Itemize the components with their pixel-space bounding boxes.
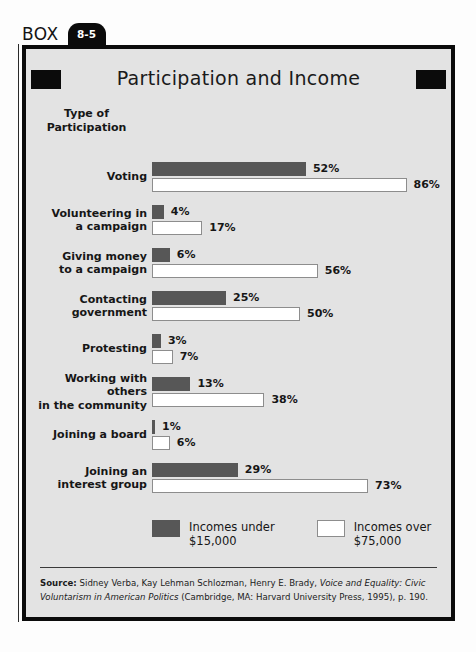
bar-line-high-income: 86% [152, 178, 447, 192]
chart-row-label: Working with others in the community [26, 371, 147, 412]
legend-swatch [317, 520, 345, 537]
bar-value-high-income: 86% [414, 178, 440, 191]
chart-row-bars: 25%50% [152, 291, 447, 321]
bar-value-low-income: 6% [177, 248, 196, 261]
bar-high-income [152, 436, 170, 450]
bar-low-income [152, 162, 306, 176]
bar-line-low-income: 1% [152, 420, 447, 434]
bar-value-high-income: 50% [307, 307, 333, 320]
chart-row-bars: 4%17% [152, 205, 447, 235]
source-citation: Source: Sidney Verba, Kay Lehman Schlozm… [40, 576, 437, 604]
chart-row: Working with others in the community13%3… [26, 370, 451, 413]
bar-value-high-income: 38% [271, 393, 297, 406]
bar-value-low-income: 3% [168, 334, 187, 347]
chart-row-label: Contacting government [26, 292, 147, 319]
chart-row-bars: 29%73% [152, 463, 447, 493]
chart-row: Joining a board1%6% [26, 413, 451, 456]
bar-value-low-income: 4% [171, 205, 190, 218]
bar-value-low-income: 29% [245, 463, 271, 476]
bar-value-high-income: 17% [209, 221, 235, 234]
bar-low-income [152, 420, 155, 434]
bar-value-high-income: 56% [325, 264, 351, 277]
chart-rows: Voting52%86%Volunteering in a campaign4%… [26, 155, 451, 499]
title-band: Participation and Income [26, 65, 451, 95]
box-frame: Participation and Income Type of Partici… [22, 45, 455, 621]
chart-row: Giving money to a campaign6%56% [26, 241, 451, 284]
source-divider [40, 567, 437, 568]
chart-row-label: Giving money to a campaign [26, 249, 147, 276]
bar-value-high-income: 73% [375, 479, 401, 492]
bar-value-low-income: 13% [197, 377, 223, 390]
chart-row: Volunteering in a campaign4%17% [26, 198, 451, 241]
chart-legend: Incomes under $15,000Incomes over $75,00… [152, 520, 431, 548]
chart-row-bars: 52%86% [152, 162, 447, 192]
chart-row: Voting52%86% [26, 155, 451, 198]
bar-line-low-income: 13% [152, 377, 447, 391]
chart-row-label: Joining a board [26, 428, 147, 442]
chart-row-label: Joining an interest group [26, 464, 147, 491]
source-publisher: (Cambridge, MA: Harvard University Press… [178, 592, 428, 602]
bar-value-high-income: 7% [180, 350, 199, 363]
chart-row: Contacting government25%50% [26, 284, 451, 327]
chart-row-bars: 6%56% [152, 248, 447, 278]
chart-row-label: Volunteering in a campaign [26, 206, 147, 233]
bar-high-income [152, 178, 407, 192]
chart-row-bars: 13%38% [152, 377, 447, 407]
bar-line-low-income: 6% [152, 248, 447, 262]
legend-swatch [152, 520, 180, 537]
legend-label: Incomes under $15,000 [189, 520, 275, 548]
chart-row: Joining an interest group29%73% [26, 456, 451, 499]
box-word-label: BOX [22, 26, 68, 43]
chart-row-bars: 3%7% [152, 334, 447, 364]
bar-low-income [152, 248, 170, 262]
column-rule [18, 44, 19, 622]
bar-low-income [152, 334, 161, 348]
chart-row-bars: 1%6% [152, 420, 447, 450]
bar-line-high-income: 56% [152, 264, 447, 278]
source-label: Source: [40, 578, 77, 588]
bar-line-high-income: 6% [152, 436, 447, 450]
bar-high-income [152, 221, 202, 235]
bar-low-income [152, 377, 190, 391]
title-marker-right-icon [416, 70, 446, 89]
bar-line-low-income: 25% [152, 291, 447, 305]
page-canvas: BOX 8-5 Participation and Income Type of… [0, 0, 476, 652]
bar-value-high-income: 6% [177, 436, 196, 449]
bar-high-income [152, 479, 368, 493]
axis-header: Type of Participation [26, 107, 147, 135]
bar-low-income [152, 463, 238, 477]
bar-line-low-income: 3% [152, 334, 447, 348]
chart-row-label: Voting [26, 170, 147, 184]
bar-line-low-income: 4% [152, 205, 447, 219]
bar-line-low-income: 52% [152, 162, 447, 176]
bar-line-high-income: 73% [152, 479, 447, 493]
bar-value-low-income: 1% [162, 420, 181, 433]
bar-line-high-income: 7% [152, 350, 447, 364]
legend-item: Incomes under $15,000 [152, 520, 275, 548]
legend-label: Incomes over $75,000 [354, 520, 432, 548]
bar-line-high-income: 17% [152, 221, 447, 235]
bar-value-low-income: 25% [233, 291, 259, 304]
box-header: BOX 8-5 [22, 22, 106, 46]
legend-item: Incomes over $75,000 [317, 520, 432, 548]
bar-high-income [152, 393, 264, 407]
bar-high-income [152, 264, 318, 278]
bar-high-income [152, 307, 300, 321]
chart-row-label: Protesting [26, 342, 147, 356]
box-inner: Participation and Income Type of Partici… [26, 49, 451, 617]
bar-value-low-income: 52% [313, 162, 339, 175]
chart-row: Protesting3%7% [26, 327, 451, 370]
source-authors: Sidney Verba, Kay Lehman Schlozman, Henr… [77, 578, 320, 588]
bar-line-high-income: 38% [152, 393, 447, 407]
bar-low-income [152, 291, 226, 305]
box-number-tab: 8-5 [68, 23, 106, 46]
chart-title: Participation and Income [26, 65, 451, 91]
bar-line-low-income: 29% [152, 463, 447, 477]
bar-line-high-income: 50% [152, 307, 447, 321]
bar-high-income [152, 350, 173, 364]
bar-low-income [152, 205, 164, 219]
